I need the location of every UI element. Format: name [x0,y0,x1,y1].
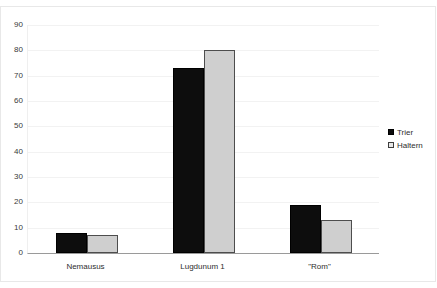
bar-lugdunum-1-trier [173,68,204,253]
plot-area [27,25,379,254]
x-axis-category-label: "Rom" [261,262,378,272]
gridline [28,25,379,26]
chart-legend: TrierHaltern [388,126,434,152]
y-axis-tick-label: 70 [1,71,23,80]
y-axis-tick-label: 10 [1,223,23,232]
legend-item-label: Haltern [397,141,423,150]
bar-lugdunum-1-haltern [204,50,235,253]
x-axis-category-label: Lugdunum 1 [144,262,261,272]
y-axis-tick-label: 0 [1,248,23,257]
legend-swatch-icon [388,129,394,135]
x-axis-category-label: Nemausus [27,262,144,272]
y-axis-tick-label: 80 [1,45,23,54]
legend-item-trier[interactable]: Trier [388,126,434,138]
bar--rom--haltern [321,220,352,253]
y-axis-tick-labels: 0102030405060708090 [0,0,23,288]
y-axis-tick-label: 20 [1,197,23,206]
legend-swatch-icon [388,142,394,148]
y-axis-tick-label: 40 [1,147,23,156]
bar--rom--trier [290,205,321,253]
bar-nemausus-haltern [87,235,118,253]
bar-chart: 0102030405060708090 NemaususLugdunum 1"R… [0,0,437,288]
y-axis-tick-label: 30 [1,172,23,181]
legend-item-label: Trier [397,128,413,137]
y-axis-tick-label: 60 [1,96,23,105]
legend-item-haltern[interactable]: Haltern [388,139,434,151]
y-axis-tick-label: 50 [1,121,23,130]
y-axis-tick-label: 90 [1,20,23,29]
bar-nemausus-trier [56,233,87,253]
